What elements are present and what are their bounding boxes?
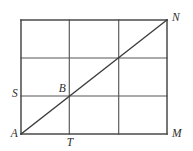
vertex-label-N: N	[171, 11, 181, 23]
vertex-label-M: M	[171, 127, 183, 139]
vertex-label-B: B	[59, 82, 66, 94]
figure-canvas: NSBATM	[0, 0, 193, 151]
vertex-label-A: A	[10, 127, 19, 139]
vertex-label-S: S	[12, 87, 18, 99]
geometry-figure: NSBATM	[0, 0, 193, 151]
